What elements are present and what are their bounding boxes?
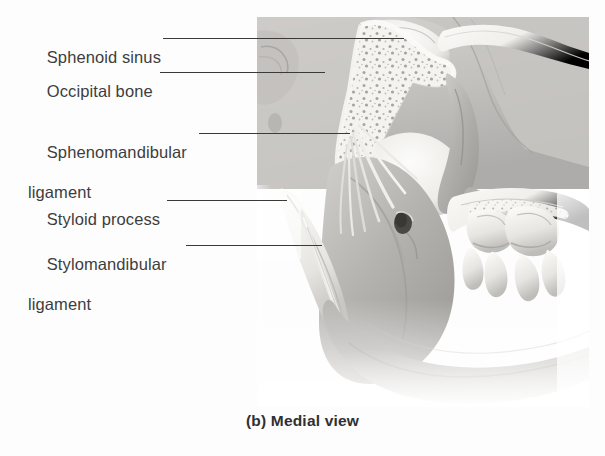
label-sphenomandibular-ligament-line1: Sphenomandibular <box>47 143 187 161</box>
anatomy-figure: Sphenoid sinus Occipital bone Sphenomand… <box>0 0 605 456</box>
label-occipital-bone: Occipital bone <box>28 61 153 121</box>
leader-line-occipital-bone <box>160 72 325 73</box>
leader-line-sphenoid-sinus <box>163 38 404 39</box>
label-occipital-bone-line1: Occipital bone <box>47 82 153 100</box>
leader-line-sphenomandibular-ligament <box>199 133 350 134</box>
label-stylomandibular-ligament-line1: Stylomandibular <box>47 255 167 273</box>
label-stylomandibular-ligament-line2: ligament <box>28 294 167 314</box>
figure-caption: (b) Medial view <box>0 412 605 430</box>
anatomical-illustration <box>257 17 589 407</box>
label-stylomandibular-ligament: Stylomandibular ligament <box>28 234 167 354</box>
label-styloid-process-line1: Styloid process <box>47 210 160 228</box>
leader-line-stylomandibular-ligament <box>186 245 322 246</box>
